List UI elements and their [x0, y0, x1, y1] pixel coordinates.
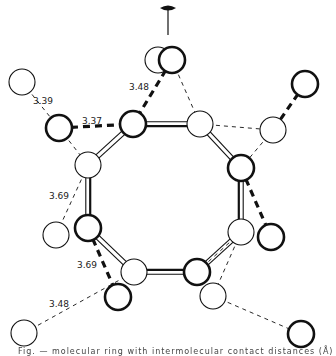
contact-line: [213, 296, 301, 334]
atom-r5: [184, 259, 210, 285]
atom-r6: [121, 259, 147, 285]
atom-o_left: [46, 115, 72, 141]
twofold-axis-icon: [160, 6, 176, 36]
atom-o_top: [159, 47, 185, 73]
atom-r7: [75, 215, 101, 241]
atom-o_left_far: [9, 69, 35, 95]
atom-o_right: [260, 117, 286, 143]
atom-o_corner_left: [11, 320, 37, 346]
atom-r3: [228, 155, 254, 181]
atom-o_right_low: [258, 224, 284, 250]
distance-label: 3.39: [33, 96, 53, 106]
distance-label: 3.48: [49, 299, 69, 309]
atom-r4: [228, 219, 254, 245]
distance-label: 3.69: [49, 191, 69, 201]
figure-caption: Fig. — molecular ring with intermolecula…: [18, 347, 336, 356]
distance-label: 3.69: [77, 260, 97, 270]
atom-r2: [187, 111, 213, 137]
distance-label: 3.37: [82, 116, 102, 126]
atom-r1: [120, 111, 146, 137]
atom-o_corner_right: [288, 321, 314, 347]
atom-o_left_low: [43, 222, 69, 248]
distance-label: 3.48: [129, 82, 149, 92]
atom-o_bot_left: [105, 284, 131, 310]
ring-bonds: [86, 122, 243, 274]
atom-o_bot_right: [200, 283, 226, 309]
atom-o_right_far: [292, 71, 318, 97]
atom-r8: [75, 152, 101, 178]
